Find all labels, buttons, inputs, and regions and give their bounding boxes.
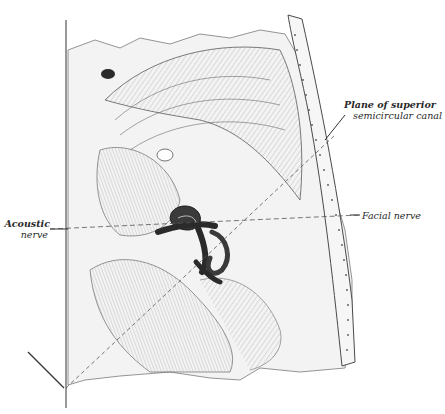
label-acoustic-nerve: Acoustic nerve xyxy=(4,218,50,240)
label-line-2: semicircular canal xyxy=(344,110,442,121)
label-line-1: Plane of superior xyxy=(344,99,436,110)
plane-pointer xyxy=(325,115,345,140)
label-line-2: nerve xyxy=(4,229,50,240)
middle-lobe xyxy=(97,147,180,236)
label-plane-of-superior-semicircular-canal: Plane of superior semicircular canal xyxy=(344,99,442,121)
label-facial-nerve: Facial nerve xyxy=(362,210,421,221)
anatomical-illustration xyxy=(0,0,445,414)
dark-foramen xyxy=(101,69,115,79)
label-line-1: Acoustic xyxy=(4,218,50,229)
oblique-line-left xyxy=(28,352,64,388)
